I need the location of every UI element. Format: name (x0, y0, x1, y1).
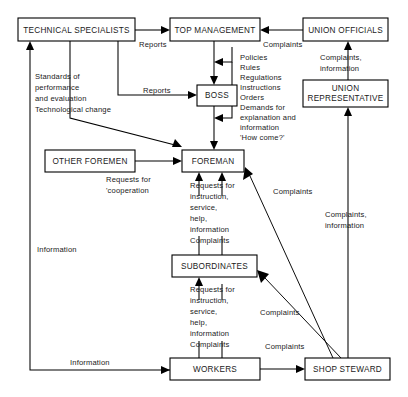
complaints-info-lower-line-2: information (325, 221, 364, 230)
requests-subordinates-line-6: Complaints (190, 340, 230, 349)
node-other-foremen[interactable]: OTHER FOREMEN (45, 150, 135, 172)
edge-label-policies-list: Policies Rules Regulations Instructions … (240, 53, 296, 142)
edge-label-reports-top-management: Reports (139, 40, 167, 49)
edge-tech-to-topmgmt (135, 26, 170, 34)
policies-line-8: information (240, 123, 279, 132)
node-shop-steward[interactable]: SHOP STEWARD (305, 358, 390, 380)
edge-unionofficials-to-topmgmt (260, 26, 303, 34)
diagram-canvas: TECHNICAL SPECIALISTS TOP MANAGEMENT UNI… (0, 0, 408, 397)
requests-subordinates-line-2: instruction, (190, 296, 229, 305)
policies-line-6: Demands for (240, 103, 285, 112)
edge-label-complaints-info-upper: Complaints, information (320, 53, 362, 73)
node-label-boss: BOSS (205, 91, 229, 100)
node-subordinates[interactable]: SUBORDINATES (172, 255, 257, 277)
requests-cooperation-line-2: 'cooperation (106, 186, 149, 195)
requests-foreman-line-1: Requests for (190, 181, 235, 190)
edge-shopsteward-to-unionrep (344, 107, 352, 358)
edge-label-standards: Standards of performance and evaluation … (35, 72, 111, 114)
requests-cooperation-line-1: Requests for (106, 175, 151, 184)
node-label-union-representative-line1: UNION (332, 84, 360, 93)
policies-line-3: Regulations (240, 73, 282, 82)
policies-line-4: Instructions (240, 83, 281, 92)
node-top-management[interactable]: TOP MANAGEMENT (170, 18, 260, 41)
policies-line-2: Rules (240, 63, 260, 72)
requests-subordinates-line-3: service, (190, 307, 217, 316)
edge-label-requests-cooperation: Requests for 'cooperation (106, 175, 151, 195)
requests-subordinates-line-4: help, (190, 318, 207, 327)
edge-label-requests-foreman: Requests for instruction, service, help,… (190, 181, 235, 245)
standards-line-2: performance (35, 83, 79, 92)
policies-line-5: Orders (240, 93, 264, 102)
complaints-info-upper-line-1: Complaints, (320, 53, 362, 62)
node-union-officials[interactable]: UNION OFFICIALS (303, 18, 388, 41)
requests-foreman-line-6: Complaints (190, 236, 230, 245)
edge-boss-to-foreman (210, 106, 218, 150)
node-workers[interactable]: WORKERS (170, 358, 260, 380)
policies-line-9: 'How come?' (240, 133, 285, 142)
node-label-workers: WORKERS (193, 365, 237, 374)
edge-workers-to-shopsteward (260, 365, 305, 373)
edge-policies-to-boss (214, 47, 232, 66)
requests-foreman-line-3: service, (190, 203, 217, 212)
node-boss[interactable]: BOSS (197, 85, 237, 106)
node-label-union-representative-line2: REPRESENTATIVE (308, 94, 384, 103)
edge-otherforemen-to-foreman (135, 157, 182, 165)
edge-label-requests-subordinates: Requests for instruction, service, help,… (190, 285, 235, 349)
node-technical-specialists[interactable]: TECHNICAL SPECIALISTS (18, 18, 135, 41)
policies-line-1: Policies (240, 53, 267, 62)
requests-foreman-line-4: help, (190, 214, 207, 223)
requests-subordinates-line-5: information (190, 329, 229, 338)
complaints-info-lower-line-1: Complaints, (325, 210, 367, 219)
edge-label-complaints-subordinates-diagonal: Complaints (260, 308, 300, 317)
standards-line-4: Technological change (35, 105, 111, 114)
complaints-info-upper-line-2: information (320, 64, 359, 73)
requests-foreman-line-2: instruction, (190, 192, 229, 201)
edge-label-information-bottom: Information (70, 358, 110, 367)
standards-line-1: Standards of (35, 72, 81, 81)
node-label-other-foremen: OTHER FOREMEN (52, 157, 127, 166)
standards-line-3: and evaluation (35, 94, 87, 103)
node-label-subordinates: SUBORDINATES (181, 262, 248, 271)
edge-label-reports-boss: Reports (143, 86, 171, 95)
edge-label-complaints-top-management: Complaints (263, 40, 303, 49)
requests-foreman-line-5: information (190, 225, 229, 234)
requests-subordinates-line-1: Requests for (190, 285, 235, 294)
edge-label-complaints-foreman-diagonal: Complaints (273, 187, 313, 196)
node-label-top-management: TOP MANAGEMENT (175, 26, 256, 35)
node-union-representative[interactable]: UNION REPRESENTATIVE (303, 80, 388, 107)
node-label-union-officials: UNION OFFICIALS (308, 26, 383, 35)
policies-line-7: explanation and (240, 113, 296, 122)
edge-label-complaints-info-lower: Complaints, information (325, 210, 367, 230)
node-label-technical-specialists: TECHNICAL SPECIALISTS (23, 26, 130, 35)
node-foreman[interactable]: FOREMAN (182, 150, 244, 172)
edge-label-information-left: Information (37, 245, 77, 254)
node-label-shop-steward: SHOP STEWARD (313, 365, 382, 374)
edge-label-complaints-bottom: Complaints (265, 342, 305, 351)
node-label-foreman: FOREMAN (192, 157, 235, 166)
org-flow-diagram: TECHNICAL SPECIALISTS TOP MANAGEMENT UNI… (0, 0, 408, 397)
